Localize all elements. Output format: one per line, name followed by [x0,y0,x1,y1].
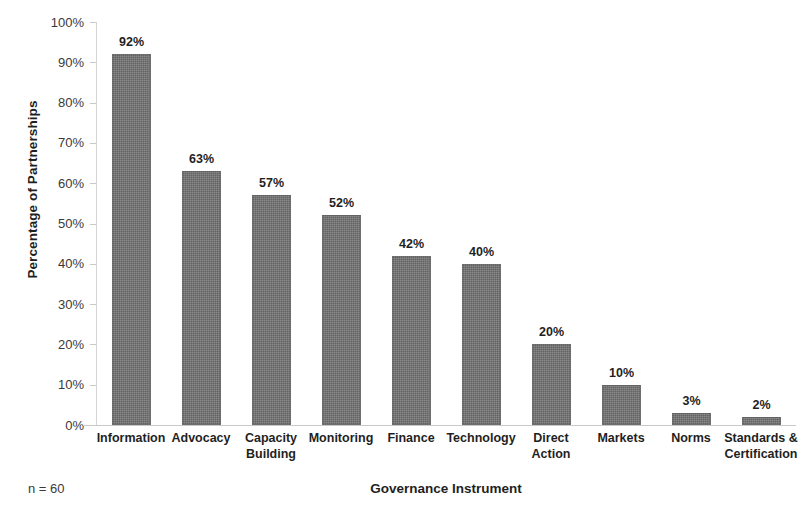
x-axis-category-label: Technology [442,431,520,447]
x-axis-title: Governance Instrument [96,481,796,496]
x-axis-category-label: Information [92,431,170,447]
bar [322,215,361,425]
x-axis-category-label: Advocacy [162,431,240,447]
bar [532,344,571,425]
x-axis-category-label: DirectAction [512,431,590,462]
x-axis-category-label: Standards &Certification [722,431,800,462]
bar [112,54,151,425]
x-axis-category-label-line: Action [512,447,590,463]
x-axis-category-label: Monitoring [302,431,380,447]
x-axis-category-label: CapacityBuilding [232,431,310,462]
bar-value-label: 40% [446,246,517,259]
y-axis-tick-label: 50% [28,217,84,230]
x-axis-category-label-line: Markets [582,431,660,447]
x-axis-category-label-line: Monitoring [302,431,380,447]
y-axis-tick-mark [90,344,96,345]
y-axis-tick-labels: 0%10%20%30%40%50%60%70%80%90%100% [22,0,84,518]
bar-group: 3% [656,22,727,425]
x-axis-category-label-line: Building [232,447,310,463]
y-axis-tick-mark [90,183,96,184]
y-axis-tick-label: 60% [28,177,84,190]
x-axis-category-label-line: Certification [722,447,800,463]
bar-group: 20% [516,22,587,425]
bar [742,417,781,425]
bar-group: 52% [306,22,377,425]
sample-size-note: n = 60 [28,481,65,496]
bar-group: 57% [236,22,307,425]
y-axis-tick-label: 80% [28,96,84,109]
bar [182,171,221,425]
x-axis-category-label: Finance [372,431,450,447]
bar [602,385,641,425]
bar-value-label: 42% [376,238,447,251]
x-axis-category-label-line: Information [92,431,170,447]
bar-chart: Percentage of Partnerships 0%10%20%30%40… [0,0,810,518]
y-axis-tick-label: 20% [28,338,84,351]
bar [672,413,711,425]
y-axis-tick-mark [90,264,96,265]
x-axis-category-label-line: Direct [512,431,590,447]
x-axis-category-label-line: Capacity [232,431,310,447]
y-axis-tick-label: 90% [28,56,84,69]
x-axis-category-label-line: Standards & [722,431,800,447]
y-axis-tick-mark [90,385,96,386]
y-axis-tick-label: 70% [28,136,84,149]
bar [392,256,431,425]
y-axis-tick-label: 0% [28,419,84,432]
y-axis-tick-label: 40% [28,257,84,270]
x-axis-category-label: Norms [652,431,730,447]
bar-value-label: 52% [306,197,377,210]
bar-value-label: 57% [236,177,307,190]
y-axis-tick-mark [90,224,96,225]
bar-group: 2% [726,22,797,425]
x-axis-category-label-line: Norms [652,431,730,447]
x-axis-category-labels: InformationAdvocacyCapacityBuildingMonit… [96,431,796,477]
bar-group: 42% [376,22,447,425]
x-axis-line [83,425,796,426]
bar-group: 63% [166,22,237,425]
bar-value-label: 92% [96,36,167,49]
y-axis-tick-label: 100% [28,16,84,29]
x-axis-category-label: Markets [582,431,660,447]
bar-group: 40% [446,22,517,425]
bar-value-label: 3% [656,395,727,408]
bar-group: 92% [96,22,167,425]
x-axis-category-label-line: Technology [442,431,520,447]
plot-area: 92%63%57%52%42%40%20%10%3%2% [96,22,796,425]
y-axis-tick-mark [90,62,96,63]
y-axis-tick-mark [90,304,96,305]
y-axis-tick-label: 10% [28,378,84,391]
y-axis-tick-label: 30% [28,298,84,311]
x-axis-category-label-line: Advocacy [162,431,240,447]
bar-value-label: 20% [516,326,587,339]
bar [252,195,291,425]
y-axis-tick-mark [90,22,96,23]
bar-value-label: 2% [726,399,797,412]
bar [462,264,501,425]
y-axis-tick-mark [90,103,96,104]
bar-value-label: 63% [166,153,237,166]
x-axis-category-label-line: Finance [372,431,450,447]
bar-value-label: 10% [586,367,657,380]
bar-group: 10% [586,22,657,425]
y-axis-tick-mark [90,143,96,144]
